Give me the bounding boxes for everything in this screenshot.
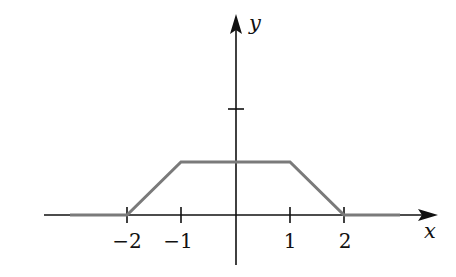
chart: y x −2 −1 1 2 (0, 0, 456, 277)
function-curve (70, 162, 400, 215)
x-tick-label: 2 (339, 229, 352, 253)
y-axis-label: y (248, 11, 262, 35)
y-axis (228, 14, 244, 265)
x-tick-label: −2 (112, 229, 141, 253)
x-axis-label: x (424, 219, 436, 243)
x-tick-label: 1 (284, 229, 297, 253)
x-tick-label: −1 (163, 229, 192, 253)
